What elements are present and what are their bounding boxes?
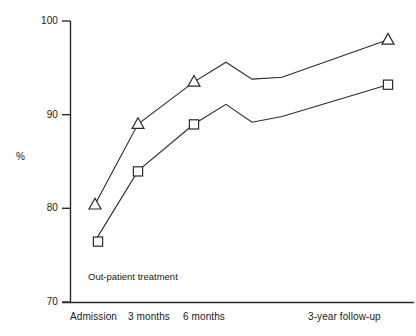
- square-marker-6-months: [189, 120, 198, 129]
- x-tick-label-3-months: 3 months: [128, 311, 170, 322]
- y-tick-label-80: 80: [28, 202, 58, 213]
- square-marker-3-year-follow-up: [383, 80, 392, 89]
- chart-figure: 100 90 80 70 % Admission 3 months 6 mont…: [0, 0, 416, 336]
- triangle-marker-3-year-follow-up: [382, 33, 394, 44]
- square-marker-3-months: [133, 167, 142, 176]
- y-tick-label-100: 100: [28, 15, 58, 26]
- square-marker-admission: [93, 237, 102, 246]
- outpatient-treatment-annotation: Out-patient treatment: [88, 271, 178, 282]
- triangle-marker-6-months: [188, 76, 200, 87]
- x-tick-label-3-year-follow-up: 3-year follow-up: [308, 311, 381, 322]
- x-tick-label-admission: Admission: [70, 311, 117, 322]
- triangle-marker-3-months: [132, 118, 144, 129]
- x-tick-label-6-months: 6 months: [183, 311, 225, 322]
- square-series-line: [95, 85, 388, 241]
- line-chart-plot: [0, 0, 416, 336]
- y-tick-label-70: 70: [28, 296, 58, 307]
- triangle-marker-admission: [89, 198, 101, 209]
- y-axis-title: %: [16, 151, 25, 162]
- y-tick-label-90: 90: [28, 109, 58, 120]
